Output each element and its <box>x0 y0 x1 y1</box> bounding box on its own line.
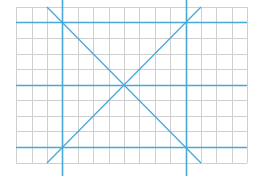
grid-diagram <box>0 0 262 176</box>
guide-lines <box>16 0 247 176</box>
